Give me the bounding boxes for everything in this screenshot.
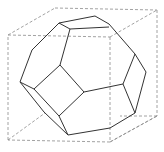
cube-edge bbox=[8, 140, 110, 142]
cube-edge bbox=[55, 8, 157, 10]
polyhedron-edge bbox=[135, 72, 146, 113]
polyhedron-edge bbox=[32, 23, 59, 50]
cube-edge bbox=[8, 113, 45, 140]
polyhedron-edge bbox=[95, 16, 109, 24]
polyhedron-edge bbox=[123, 84, 135, 113]
polyhedron-edge bbox=[60, 65, 84, 92]
polyhedron-edge bbox=[20, 82, 44, 112]
polyhedron-edge bbox=[34, 89, 59, 116]
polyhedron-edge bbox=[123, 54, 135, 84]
polyhedron-edge bbox=[59, 116, 68, 135]
polyhedron-edge bbox=[20, 50, 32, 82]
truncated-octahedron-diagram bbox=[0, 0, 164, 152]
polyhedron-edge bbox=[59, 92, 84, 116]
polyhedron-edge bbox=[110, 113, 135, 128]
truncated-octahedron-edges bbox=[20, 16, 146, 135]
polyhedron-edge bbox=[34, 65, 60, 89]
polyhedron-edge bbox=[60, 29, 70, 65]
polyhedron-edge bbox=[109, 24, 135, 54]
polyhedron-edge bbox=[70, 27, 109, 29]
polyhedron-edge bbox=[68, 128, 110, 135]
polyhedron-edge bbox=[44, 112, 68, 135]
polyhedron-edge bbox=[84, 84, 123, 92]
polyhedron-edge bbox=[135, 54, 146, 72]
polyhedron-edge bbox=[59, 16, 95, 23]
cube-edge bbox=[8, 8, 55, 35]
cube-edge bbox=[8, 35, 110, 37]
polyhedron-edge bbox=[59, 23, 70, 29]
polyhedron-edge bbox=[20, 82, 34, 89]
